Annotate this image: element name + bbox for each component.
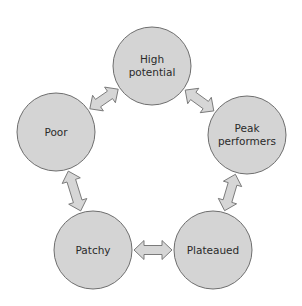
node-poor: Poor bbox=[17, 93, 95, 171]
node-high: Highpotential bbox=[113, 27, 191, 105]
double-arrow-patchy-poor bbox=[62, 171, 87, 211]
node-patchy: Patchy bbox=[54, 211, 132, 289]
node-peak: Peakperformers bbox=[208, 96, 286, 174]
node-label: performers bbox=[218, 135, 276, 147]
double-arrow-plateaued-patchy bbox=[134, 241, 172, 260]
node-label: Peak bbox=[235, 122, 261, 134]
double-arrow-poor-high bbox=[90, 87, 118, 111]
node-label: potential bbox=[129, 66, 176, 78]
node-label: High bbox=[140, 53, 164, 65]
performance-cycle-diagram: HighpotentialPeakperformersPlateauedPatc… bbox=[0, 0, 302, 306]
node-plateaued: Plateaued bbox=[174, 211, 252, 289]
node-label: Poor bbox=[44, 126, 68, 138]
node-label: Patchy bbox=[75, 244, 110, 256]
double-arrow-peak-plateaued bbox=[218, 174, 241, 210]
double-arrow-high-peak bbox=[185, 88, 214, 112]
node-label: Plateaued bbox=[187, 244, 239, 256]
